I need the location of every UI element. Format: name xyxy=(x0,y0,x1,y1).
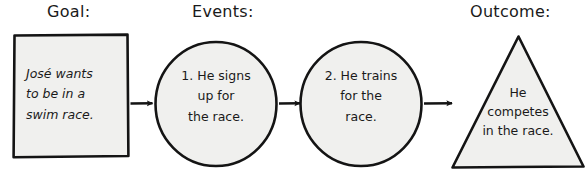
node-goal-text: José wants to be in a swim race. xyxy=(26,64,122,125)
flowchart-diagram: Goal: Events: Outcome: José wants to be … xyxy=(0,0,587,176)
node-event-1-text: 1. He signs up for the race. xyxy=(163,66,269,127)
node-event-2-text: 2. He trains for the race. xyxy=(308,66,414,127)
node-outcome-text: He competes in the race. xyxy=(476,84,560,140)
